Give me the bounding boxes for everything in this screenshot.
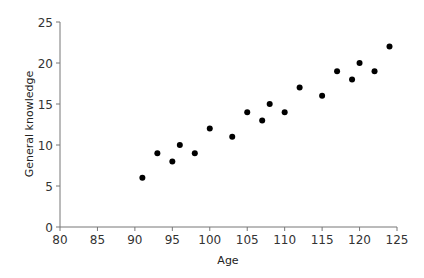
data-point	[139, 175, 145, 181]
data-point	[267, 101, 273, 107]
x-axis-label: Age	[217, 254, 239, 267]
y-tick-label: 25	[38, 16, 53, 30]
y-tick-label: 15	[38, 98, 53, 112]
data-points	[139, 44, 392, 181]
data-point	[244, 109, 250, 115]
data-point	[169, 158, 175, 164]
x-tick-label: 125	[386, 233, 409, 247]
scatter-chart: 0510152025 80859095100105110115120125 Ag…	[0, 0, 424, 278]
data-point	[334, 68, 340, 74]
x-tick-label: 110	[273, 233, 296, 247]
data-point	[229, 134, 235, 140]
data-point	[319, 93, 325, 99]
y-tick-label: 10	[38, 139, 53, 153]
x-tick-label: 80	[52, 233, 67, 247]
x-tick-label: 105	[236, 233, 259, 247]
x-tick-label: 100	[198, 233, 221, 247]
data-point	[177, 142, 183, 148]
data-point	[387, 44, 393, 50]
x-tick-label: 95	[165, 233, 180, 247]
x-tick-label: 120	[348, 233, 371, 247]
x-tick-label: 90	[127, 233, 142, 247]
data-point	[372, 68, 378, 74]
data-point	[282, 109, 288, 115]
data-point	[154, 150, 160, 156]
y-tick-label: 5	[45, 180, 53, 194]
data-point	[259, 117, 265, 123]
data-point	[297, 85, 303, 91]
x-tick-label: 85	[90, 233, 105, 247]
x-tick-label: 115	[311, 233, 334, 247]
y-axis-label: General knowledge	[23, 71, 36, 178]
data-point	[207, 126, 213, 132]
x-axis: 80859095100105110115120125	[52, 227, 408, 247]
data-point	[349, 76, 355, 82]
data-point	[192, 150, 198, 156]
y-axis: 0510152025	[38, 16, 60, 235]
y-tick-label: 20	[38, 57, 53, 71]
data-point	[357, 60, 363, 66]
